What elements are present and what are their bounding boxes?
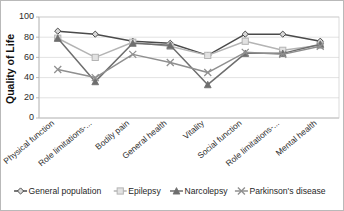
y-tick-label-60: 60 [24,52,34,62]
y-axis-tick-labels: 020406080100 [19,11,34,122]
x-axis-tick-labels: Physical functionRole limitations-...Bod… [1,117,318,168]
legend-label: General population [29,186,102,196]
y-tick-label-20: 20 [24,92,34,102]
legend-label: Narcolepsy [184,186,228,196]
data-point-marker [17,188,23,194]
legend-item-narcolepsy[interactable]: Narcolepsy [170,186,228,196]
data-point-marker [117,188,123,194]
legend-label: Epilepsy [128,186,161,196]
y-tick-label-80: 80 [24,32,34,42]
legend-item-epilepsy[interactable]: Epilepsy [114,186,162,196]
quality-of-life-line-chart: 020406080100 Quality of Life Physical fu… [1,1,344,211]
data-point-marker [92,31,98,37]
y-tick-label-0: 0 [29,112,34,122]
data-point-marker [280,31,286,37]
legend-label: Parkinson's disease [249,186,325,196]
x-tick-label-4: Vitality [181,117,207,141]
y-axis-title: Quality of Life [4,34,16,104]
chart-legend: General populationEpilepsyNarcolepsyPark… [14,186,326,196]
legend-item-parkinson-s-disease[interactable]: Parkinson's disease [235,186,326,196]
chart-figure: 020406080100 Quality of Life Physical fu… [0,0,344,211]
x-tick-label-7: Mental health [274,118,319,158]
data-point-marker [92,54,98,60]
y-tick-label-40: 40 [24,72,34,82]
x-tick-label-2: Bodily pain [93,118,131,152]
legend-item-general-population[interactable]: General population [14,186,101,196]
data-point-marker [242,38,248,44]
y-tick-label-100: 100 [19,11,34,21]
data-point-marker [242,31,248,37]
series-narcolepsy [54,35,323,88]
data-point-marker [205,52,211,58]
data-point-marker [55,28,61,34]
